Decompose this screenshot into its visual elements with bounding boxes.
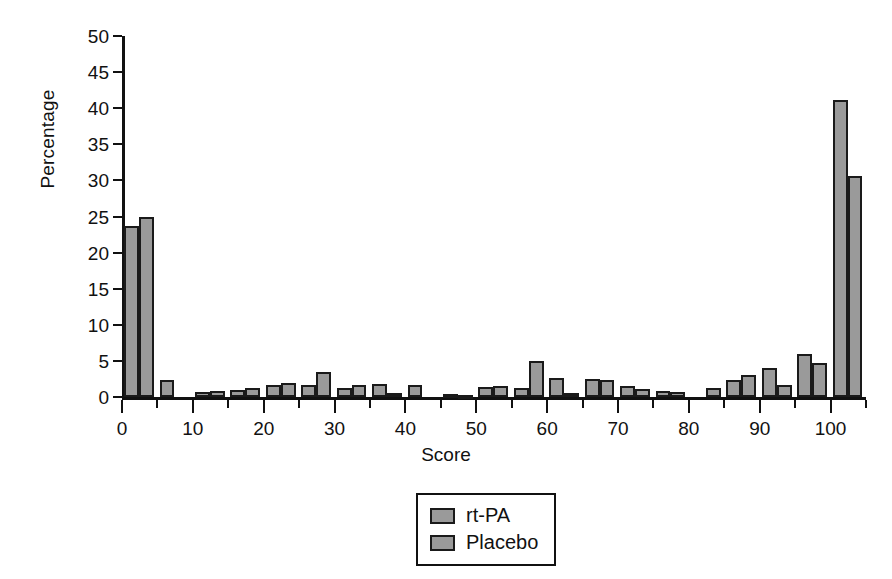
y-axis-tick-label: 50 [69, 27, 109, 46]
bar [478, 387, 493, 397]
y-axis-tick-label: 35 [69, 135, 109, 154]
x-axis-tick [759, 400, 761, 413]
y-axis-tick [113, 107, 122, 109]
x-axis-tick [546, 400, 548, 413]
bar [514, 388, 529, 397]
bar [160, 380, 175, 397]
x-axis-tick [334, 400, 336, 413]
x-axis-minor-tick [227, 400, 229, 408]
legend-item-placebo: Placebo [430, 529, 538, 556]
x-axis-minor-tick [156, 400, 158, 408]
y-axis-tick-label: 10 [69, 316, 109, 335]
y-axis-tick-label: 45 [69, 63, 109, 82]
x-axis-tick-label: 90 [730, 419, 790, 438]
y-axis-tick-label: 40 [69, 99, 109, 118]
x-axis-tick [192, 400, 194, 413]
y-axis-tick-label: 25 [69, 208, 109, 227]
y-axis-tick-label: 30 [69, 171, 109, 190]
bar [529, 361, 544, 397]
plot-area [122, 36, 866, 397]
bar [195, 392, 210, 397]
bar [245, 388, 260, 397]
x-axis-tick-label: 0 [92, 419, 152, 438]
x-axis-title: Score [0, 444, 892, 466]
x-axis-tick-label: 10 [163, 419, 223, 438]
bar [812, 363, 827, 397]
y-axis-tick [113, 179, 122, 181]
y-axis-tick-label: 5 [69, 352, 109, 371]
y-axis-tick [113, 360, 122, 362]
x-axis-tick-label: 60 [517, 419, 577, 438]
y-axis-tick [113, 252, 122, 254]
x-axis-minor-tick [652, 400, 654, 408]
y-axis-tick [113, 216, 122, 218]
bar [139, 217, 154, 398]
x-axis-minor-tick [723, 400, 725, 408]
bar [124, 226, 139, 397]
chart-legend: rt-PA Placebo [416, 493, 556, 566]
bar [387, 393, 402, 397]
bar [635, 389, 650, 397]
bar [549, 378, 564, 397]
bar [656, 391, 671, 397]
y-axis-tick [113, 71, 122, 73]
bar [372, 384, 387, 397]
x-axis-tick-label: 100 [801, 419, 861, 438]
legend-swatch-placebo [430, 535, 455, 551]
x-axis-tick [617, 400, 619, 413]
bar [352, 385, 367, 397]
x-axis-minor-tick [298, 400, 300, 408]
bar [301, 385, 316, 397]
bar [585, 379, 600, 397]
x-axis-tick-label: 50 [446, 419, 506, 438]
x-axis-line [122, 397, 866, 400]
y-axis-tick [113, 396, 122, 398]
bar [266, 385, 281, 397]
legend-item-rt-pa: rt-PA [430, 502, 538, 529]
legend-swatch-rt-pa [430, 508, 455, 524]
x-axis-minor-tick [582, 400, 584, 408]
bar [797, 354, 812, 397]
y-axis-tick-label: 15 [69, 280, 109, 299]
legend-label-rt-pa: rt-PA [466, 504, 510, 527]
x-axis-minor-tick [865, 400, 867, 408]
bar [777, 385, 792, 397]
x-axis-minor-tick [794, 400, 796, 408]
x-axis-tick [263, 400, 265, 413]
bar [741, 375, 756, 397]
bar [620, 386, 635, 397]
y-axis-tick [113, 324, 122, 326]
y-axis-tick [113, 288, 122, 290]
bar-chart-figure: Percentage 05101520253035404550 01020304… [0, 0, 892, 579]
y-axis-tick-label: 0 [69, 388, 109, 407]
bar [230, 390, 245, 397]
y-axis-tick-label: 20 [69, 244, 109, 263]
x-axis-tick [404, 400, 406, 413]
bar [493, 386, 508, 397]
x-axis-minor-tick [511, 400, 513, 408]
bar [670, 392, 685, 397]
x-axis-tick [830, 400, 832, 413]
bar [337, 388, 352, 397]
x-axis-tick-label: 80 [659, 419, 719, 438]
bar [726, 380, 741, 397]
x-axis-minor-tick [440, 400, 442, 408]
y-axis-title: Percentage [37, 39, 59, 239]
bar [281, 383, 296, 397]
bar [408, 385, 423, 397]
x-axis-tick [475, 400, 477, 413]
bar [848, 176, 863, 397]
x-axis-tick-label: 40 [375, 419, 435, 438]
bar [458, 395, 473, 399]
x-axis-tick [688, 400, 690, 413]
x-axis-tick-label: 30 [305, 419, 365, 438]
bar [600, 380, 615, 397]
legend-label-placebo: Placebo [466, 531, 538, 554]
x-axis-tick-label: 20 [234, 419, 294, 438]
y-axis-tick [113, 35, 122, 37]
x-axis-tick [121, 400, 123, 413]
x-axis-tick-label: 70 [588, 419, 648, 438]
x-axis-minor-tick [369, 400, 371, 408]
bar [316, 372, 331, 397]
bar [706, 388, 721, 397]
